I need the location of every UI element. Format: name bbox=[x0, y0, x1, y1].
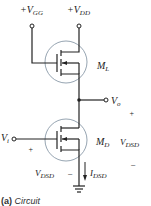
vgg-supply: +VGG bbox=[20, 4, 43, 28]
vdsd-right-label: VDSD bbox=[120, 137, 139, 149]
vi-label: Vi bbox=[1, 132, 9, 145]
transistor-ml bbox=[32, 28, 87, 100]
ground-icon bbox=[73, 186, 85, 192]
vdd-terminal-icon bbox=[77, 24, 81, 28]
svg-text:Vo: Vo bbox=[111, 95, 121, 108]
svg-text:+VGG: +VGG bbox=[20, 4, 43, 17]
arrow-icon bbox=[62, 61, 67, 65]
svg-text:+: + bbox=[28, 145, 33, 154]
svg-text:+: + bbox=[129, 109, 134, 118]
md-label: MD bbox=[95, 136, 109, 149]
svg-text:+VDD: +VDD bbox=[67, 4, 90, 17]
output-node: Vo bbox=[77, 95, 121, 108]
ml-label: ML bbox=[96, 60, 109, 73]
svg-text:−: − bbox=[130, 160, 136, 170]
vi-terminal-icon bbox=[12, 137, 16, 141]
vgg-terminal-icon bbox=[30, 24, 34, 28]
vdd-supply: +VDD bbox=[67, 4, 90, 28]
idsd-label: IDSD bbox=[89, 168, 107, 180]
current-arrow bbox=[83, 162, 87, 181]
figure-caption: (a) Circuit bbox=[1, 196, 41, 206]
circuit-diagram: +VGG +VDD ML Vo + bbox=[0, 0, 151, 206]
arrow-icon bbox=[62, 137, 67, 141]
vo-terminal-icon bbox=[104, 98, 108, 102]
svg-text:−: − bbox=[67, 169, 73, 179]
vdsd-left-label: VDSD bbox=[35, 168, 54, 180]
down-arrow-icon bbox=[83, 175, 87, 181]
